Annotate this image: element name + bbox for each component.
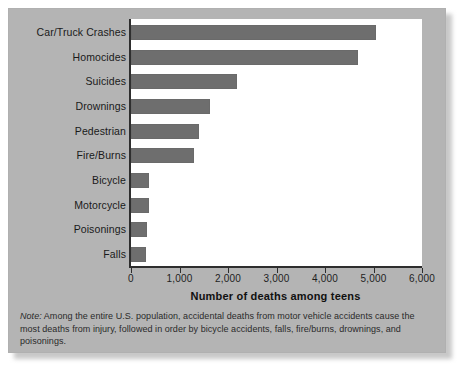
bar-fill (131, 124, 199, 139)
x-tick-label: 3,000 (263, 273, 289, 284)
bar (131, 25, 376, 40)
bar (131, 50, 358, 65)
bar (131, 74, 237, 89)
category-axis-labels: Car/Truck CrashesHomocidesSuicidesDrowni… (8, 19, 126, 266)
bar (131, 173, 149, 188)
bar (131, 198, 149, 213)
bar-fill (131, 50, 358, 65)
bar (131, 222, 147, 237)
note-body: Among the entire U.S. population, accide… (20, 311, 415, 346)
x-axis-title: Number of deaths among teens (129, 290, 422, 302)
x-tick-label: 5,000 (360, 273, 386, 284)
category-label: Car/Truck Crashes (37, 26, 126, 38)
bar-series (131, 19, 422, 266)
x-tick-label: 1,000 (166, 273, 192, 284)
bar-fill (131, 222, 147, 237)
chart-note: Note: Among the entire U.S. population, … (20, 310, 434, 348)
category-label: Suicides (86, 75, 127, 87)
x-tick-label: 6,000 (409, 273, 435, 284)
bar-fill (131, 148, 194, 163)
category-label: Motorcycle (74, 199, 126, 211)
bar-fill (131, 74, 237, 89)
category-label: Falls (103, 248, 126, 260)
bar (131, 148, 194, 163)
bar-fill (131, 99, 210, 114)
chart-panel: Car/Truck CrashesHomocidesSuicidesDrowni… (8, 8, 446, 353)
bar-fill (131, 198, 149, 213)
bar (131, 124, 199, 139)
x-tick-label: 2,000 (215, 273, 241, 284)
bar (131, 247, 146, 262)
category-label: Homocides (73, 51, 126, 63)
category-label: Bicycle (92, 174, 126, 186)
chart-figure: Car/Truck CrashesHomocidesSuicidesDrowni… (0, 0, 460, 370)
category-label: Poisonings (74, 223, 126, 235)
y-axis-line (129, 19, 131, 267)
category-label: Pedestrian (75, 125, 126, 137)
bar-fill (131, 25, 376, 40)
bar-fill (131, 173, 149, 188)
category-label: Fire/Burns (77, 149, 126, 161)
note-lead: Note: (20, 311, 42, 321)
x-axis-line (129, 266, 422, 268)
category-label: Drownings (75, 100, 126, 112)
bar-fill (131, 247, 146, 262)
x-tick-label: 0 (128, 273, 134, 284)
bar (131, 99, 210, 114)
x-tick-label: 4,000 (312, 273, 338, 284)
